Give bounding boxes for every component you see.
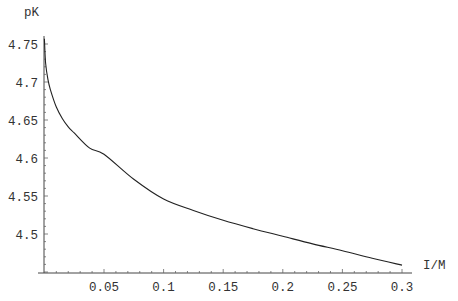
y-tick-label: 4.55 (8, 191, 38, 205)
x-tick-label: 0.05 (89, 281, 119, 295)
pk-curve (44, 39, 402, 265)
y-tick-label: 4.7 (15, 77, 38, 91)
x-tick-label: 0.15 (208, 281, 238, 295)
x-tick-label: 0.1 (152, 281, 175, 295)
x-axis-label: I/M (423, 259, 446, 273)
y-tick-label: 4.65 (8, 115, 38, 129)
x-axis: 0.050.10.150.20.250.3 I/M (38, 259, 446, 295)
x-tick-label: 0.25 (327, 281, 357, 295)
y-axis-label: pK (24, 6, 40, 20)
chart: 4.54.554.64.654.74.75 pK 0.050.10.150.20… (0, 0, 458, 301)
y-tick-label: 4.5 (15, 229, 38, 243)
y-tick-label: 4.75 (8, 39, 38, 53)
y-ticks: 4.54.554.64.654.74.75 (8, 39, 48, 273)
x-tick-label: 0.2 (272, 281, 295, 295)
y-tick-label: 4.6 (15, 153, 38, 167)
y-axis: 4.54.554.64.654.74.75 pK (8, 6, 48, 273)
x-tick-label: 0.3 (391, 281, 414, 295)
